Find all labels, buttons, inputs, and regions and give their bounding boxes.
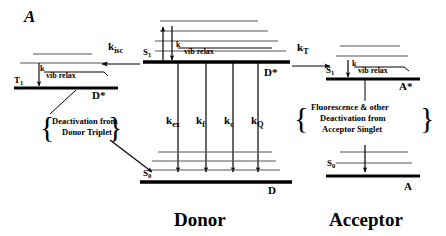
donor-s1-label: S1 — [143, 47, 151, 58]
acceptor-brace-right: } — [420, 101, 434, 134]
acceptor-brace-left: { — [294, 101, 308, 134]
donor-rate-arrows — [178, 63, 258, 172]
jablonski-diagram-figure: A T1 k vib relax D* kisc — [0, 0, 446, 236]
k-T-label: kT — [297, 41, 309, 56]
panel-label: A — [23, 7, 35, 26]
triplet-vib-relax-k: k — [40, 64, 45, 73]
acceptor-vib-relax-k: k — [352, 59, 357, 68]
donor-ground-species-label: D — [268, 184, 276, 196]
triplet-vib-relax-tick — [104, 72, 108, 76]
triplet-annotation-line-2: Donor Triplet — [62, 127, 112, 137]
triplet-vib-relax-text: vib relax — [46, 71, 76, 80]
acceptor-vib-relax-text: vib relax — [358, 66, 388, 75]
k-isc-label: kisc — [108, 40, 123, 55]
acceptor-ground-manifold — [326, 145, 420, 176]
diagram-canvas: A T1 k vib relax D* kisc — [0, 0, 446, 236]
acceptor-s1-label: S1 — [326, 65, 334, 76]
acceptor-annotation-line-1: Fluorescence & other — [311, 102, 389, 112]
triplet-state-label: T1 — [14, 75, 23, 86]
triplet-brace-left: { — [40, 110, 54, 143]
acceptor-title: Acceptor — [329, 209, 403, 230]
donor-vib-relax-k: k — [176, 40, 181, 49]
acceptor-vib-relax-tick — [404, 67, 409, 71]
acceptor-annotation-line-3: Acceptor Singlet — [322, 124, 382, 134]
triplet-annotation-line-1: Deactivation from — [52, 116, 118, 126]
k-f-label: kf — [196, 114, 205, 129]
triplet-species-label: D* — [92, 89, 106, 101]
acceptor-excited-species-label: A* — [399, 80, 413, 92]
acceptor-ground-species-label: A — [404, 180, 412, 192]
donor-excited-species-label: D* — [264, 66, 278, 78]
triplet-deactivation-arrow — [110, 140, 152, 172]
k-Q-label: kQ — [251, 114, 263, 129]
donor-singlet-manifold — [143, 21, 290, 62]
donor-vib-relax-text: vib relax — [184, 47, 214, 56]
donor-ground-manifold — [140, 152, 292, 182]
donor-title: Donor — [174, 209, 226, 230]
acceptor-annotation-line-2: Deactivation from — [320, 113, 386, 123]
acceptor-s0-label: S0 — [327, 158, 335, 169]
